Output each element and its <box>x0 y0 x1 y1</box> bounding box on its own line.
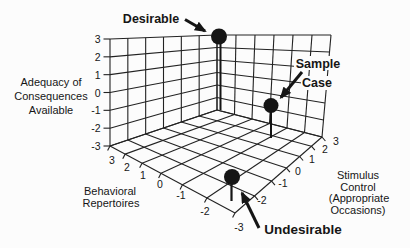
floor-grid <box>110 110 322 213</box>
stimulus-tick-label: 1 <box>309 153 315 165</box>
stimulus-tick-label: -2 <box>257 194 266 206</box>
sample-case-label-line1: Sample <box>296 57 341 71</box>
axis-tick-mark <box>108 146 110 151</box>
behavioral-tick-label: 0 <box>157 178 163 190</box>
axis-tick-mark <box>311 146 314 150</box>
adequacy-tick-label: -2 <box>91 122 100 134</box>
adequacy-axis-label-line2: Consequences <box>14 90 88 102</box>
adequacy-tick-label: 0 <box>95 87 101 99</box>
undesirable-label: Undesirable <box>264 222 342 237</box>
desirable-label: Desirable <box>123 12 179 26</box>
axis-tick-mark <box>140 163 142 168</box>
axis-tick-mark <box>286 168 289 172</box>
axis-tick-mark <box>204 198 206 203</box>
stimulus-axis-label-line1: Stimulus <box>337 169 380 181</box>
axis-tick-mark <box>300 156 303 160</box>
adequacy-axis-label-line3: Available <box>29 104 73 116</box>
stimulus-axis-label-line2: Control <box>340 181 375 193</box>
left-wall-grid <box>110 35 217 146</box>
adequacy-tick-label: 1 <box>95 69 101 81</box>
axis-tick-mark <box>322 137 325 141</box>
desirable-point <box>211 29 227 45</box>
behavioral-tick-label: 2 <box>124 161 130 173</box>
adequacy-tick-label: 2 <box>95 51 101 63</box>
3d-scatter-figure: 3210-1-2-33210-1-2-3-2-10123 Desirable S… <box>0 0 410 248</box>
desirable-arrow <box>185 20 205 32</box>
behavioral-tick-label: 1 <box>140 169 146 181</box>
axis-tick-mark <box>272 181 275 185</box>
adequacy-tick-label: 3 <box>95 33 101 45</box>
stimulus-axis-label-line3: (Appropriate <box>329 192 390 204</box>
axis-tick-mark <box>233 213 235 218</box>
grid-line <box>199 116 311 146</box>
sample-case-label-line2: Case <box>302 76 332 90</box>
figure-canvas: 3210-1-2-33210-1-2-3-2-10123 Desirable S… <box>0 0 410 248</box>
behavioral-tick-label: 3 <box>109 154 115 166</box>
stimulus-tick-label: 3 <box>333 135 339 147</box>
adequacy-tick-label: -3 <box>91 140 100 152</box>
sample-case-arrow <box>281 72 302 98</box>
sample-case-point <box>264 98 279 113</box>
adequacy-axis-label-line1: Adequacy of <box>20 76 82 88</box>
stimulus-axis-label-line4: Occasions) <box>330 204 385 216</box>
grid-line <box>235 137 322 213</box>
stimulus-tick-label: -1 <box>278 177 287 189</box>
behavioral-tick-label: -2 <box>200 205 209 217</box>
behavioral-axis-label-line1: Behavioral <box>84 185 136 197</box>
behavioral-tick-label: -3 <box>234 221 243 233</box>
undesirable-point <box>224 169 240 185</box>
behavioral-tick-label: -1 <box>176 189 185 201</box>
stimulus-tick-label: 0 <box>295 165 301 177</box>
behavioral-axis-label-line2: Repertoires <box>83 197 140 209</box>
axis-tick-mark <box>123 154 125 159</box>
adequacy-tick-label: -1 <box>91 104 100 116</box>
stimulus-tick-label: 2 <box>322 143 328 155</box>
